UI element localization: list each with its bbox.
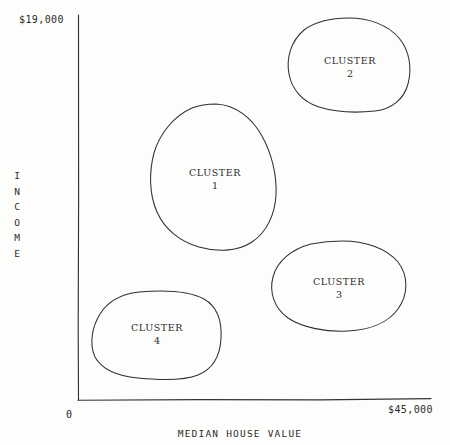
x-axis-max-tick-label: $45,000 (388, 404, 433, 415)
cluster-blob-3: CLUSTER 3 (270, 239, 408, 333)
y-axis-title-letter: O (9, 215, 25, 231)
y-axis-title: I N C O M E (9, 168, 25, 261)
origin-tick-label: 0 (66, 409, 72, 420)
cluster-scatter-figure: $19,000 $45,000 0 MEDIAN HOUSE VALUE I N… (0, 0, 450, 445)
y-axis-title-letter: I (9, 168, 25, 184)
y-axis-max-tick-label: $19,000 (19, 14, 64, 25)
cluster-1-outline (151, 104, 277, 250)
x-axis-line (78, 399, 431, 401)
y-axis-title-letter: M (9, 230, 25, 246)
y-axis-title-letter: C (9, 199, 25, 215)
cluster-blob-1: CLUSTER 1 (148, 102, 282, 252)
cluster-4-outline (92, 291, 221, 379)
y-axis-title-letter: E (9, 246, 25, 262)
cluster-3-outline (272, 241, 406, 331)
cluster-blob-2: CLUSTER 2 (287, 16, 413, 113)
cluster-blob-4: CLUSTER 4 (91, 289, 223, 381)
y-axis-title-letter: N (9, 184, 25, 200)
x-axis-title: MEDIAN HOUSE VALUE (30, 428, 450, 439)
cluster-2-outline (288, 18, 410, 112)
